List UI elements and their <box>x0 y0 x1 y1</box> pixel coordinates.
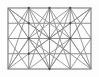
vertex-dot <box>69 37 71 39</box>
vertex-dot <box>28 22 30 24</box>
diagram-canvas <box>0 0 99 77</box>
vertex-dot <box>48 68 50 70</box>
vertex-dot <box>28 37 30 39</box>
vertex-dot <box>48 37 50 39</box>
vertex-dot <box>48 7 50 9</box>
vertex-dot <box>28 7 30 9</box>
vertex-dot <box>69 22 71 24</box>
vertex-dot <box>28 53 30 55</box>
vertex-dot <box>69 7 71 9</box>
grid-diagonal-lattice-diagram <box>0 0 99 77</box>
